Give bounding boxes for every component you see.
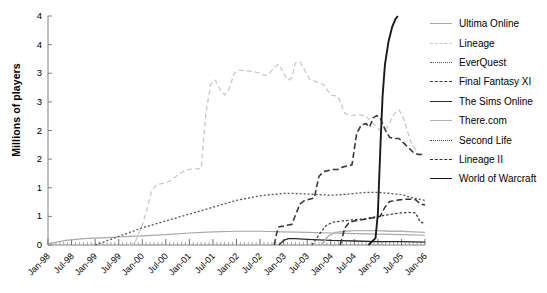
legend-label: Second Life [459,135,512,146]
legend-swatch-icon [430,140,452,141]
legend-item[interactable]: Lineage II [430,150,546,169]
legend-item[interactable]: The Sims Online [430,92,546,111]
legend-swatch-icon [430,23,452,24]
legend-swatch-icon [430,81,452,82]
legend-item[interactable]: Ultima Online [430,14,546,33]
y-tick-label: 3 [20,97,42,107]
series-line [279,239,425,245]
y-tick-label: 4 [20,11,42,21]
legend-label: Lineage II [459,154,503,165]
legend-swatch-icon [430,178,452,179]
y-tick-label: 0 [20,240,42,250]
series-line [340,199,425,245]
legend-label: The Sims Online [459,96,533,107]
legend-item[interactable]: There.com [430,111,546,130]
legend-label: Lineage [459,38,495,49]
legend-swatch-icon [430,120,452,121]
y-tick-label: 1 [20,211,42,221]
series-line [368,16,397,245]
legend-item[interactable]: Final Fantasy XI [430,72,546,91]
legend-swatch-icon [430,62,452,63]
legend-item[interactable]: EverQuest [430,53,546,72]
legend-swatch-icon [430,43,452,44]
legend-item[interactable]: Second Life [430,130,546,149]
y-tick-label: 3 [20,68,42,78]
y-tick-label: 1 [20,183,42,193]
data-series-layer [48,16,425,245]
series-line [274,116,425,245]
legend-swatch-icon [430,159,452,160]
axis-tick-marks [48,16,425,245]
legend-label: World of Warcraft [459,173,536,184]
y-tick-label: 4 [20,40,42,50]
legend-item[interactable]: Lineage [430,33,546,52]
legend-item[interactable]: World of Warcraft [430,169,546,188]
legend-label: EverQuest [459,57,506,68]
chart-figure: Millions of players 011223344 Jan-98Jul-… [0,0,547,293]
axis-lines [48,16,425,245]
legend-label: Final Fantasy XI [459,76,531,87]
chart-legend: Ultima OnlineLineageEverQuestFinal Fanta… [430,14,546,189]
y-tick-label: 2 [20,154,42,164]
legend-label: There.com [459,115,507,126]
y-tick-label: 2 [20,126,42,136]
legend-label: Ultima Online [459,18,519,29]
legend-swatch-icon [430,101,452,102]
